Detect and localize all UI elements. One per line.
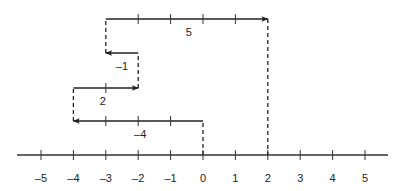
number-line-axis: –5–4–3–2–1012345	[17, 150, 388, 184]
tick-label: 1	[232, 172, 238, 184]
tick-label: 3	[297, 172, 303, 184]
tick-label: –3	[100, 172, 112, 184]
vector-steps: –42–15	[73, 14, 267, 155]
step-label: 2	[100, 95, 106, 107]
tick-label: 4	[330, 172, 336, 184]
tick-label: 0	[200, 172, 206, 184]
tick-label: –5	[35, 172, 47, 184]
tick-label: –2	[132, 172, 144, 184]
tick-label: 5	[362, 172, 368, 184]
tick-label: –4	[67, 172, 79, 184]
step-label: –4	[134, 128, 146, 140]
step-label: 5	[186, 26, 192, 38]
tick-label: –1	[164, 172, 176, 184]
number-line-diagram: –5–4–3–2–1012345 –42–15	[0, 0, 398, 191]
tick-label: 2	[265, 172, 271, 184]
step-label: –1	[116, 60, 128, 72]
